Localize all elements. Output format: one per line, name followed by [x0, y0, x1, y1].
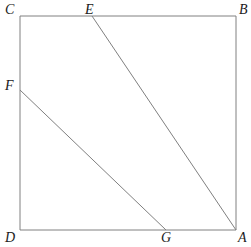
vertex-label-F: F: [5, 79, 14, 93]
transversal-EA: [92, 16, 236, 230]
vertex-label-D: D: [5, 231, 15, 245]
vertex-label-E: E: [85, 3, 94, 17]
transversal-FG: [20, 90, 166, 230]
vertex-label-B: B: [239, 3, 248, 17]
geometry-figure: C E B F D G A: [0, 0, 251, 247]
vertex-label-C: C: [5, 3, 14, 17]
segment-layer: [20, 16, 236, 230]
figure-canvas: [0, 0, 251, 247]
vertex-label-G: G: [161, 231, 171, 245]
vertex-label-A: A: [238, 231, 247, 245]
